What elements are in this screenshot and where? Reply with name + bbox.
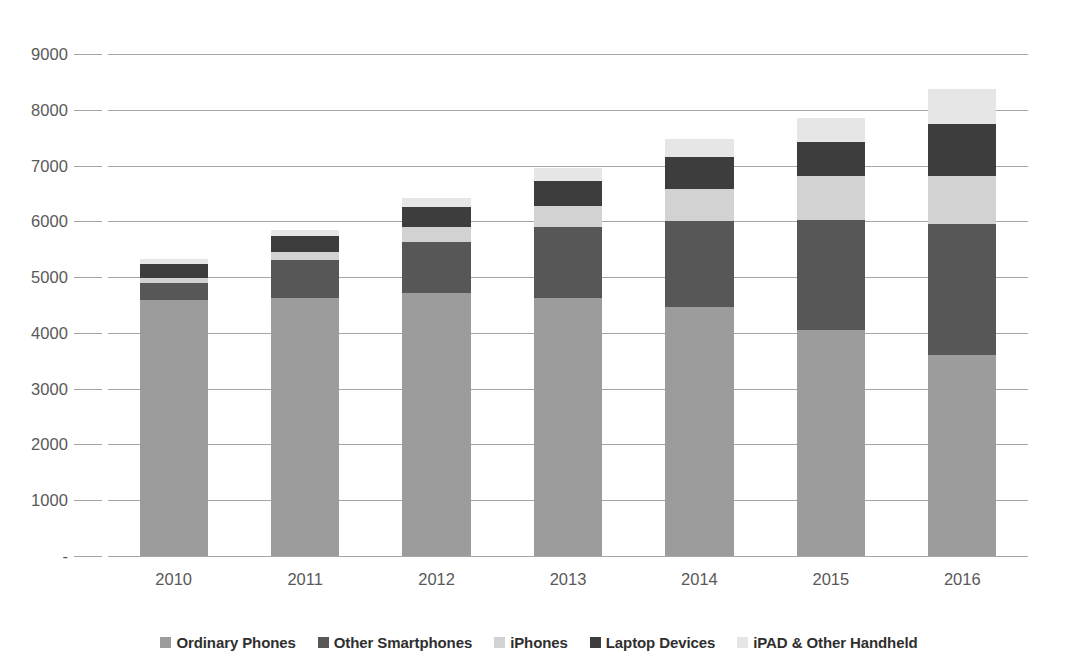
y-axis-tick bbox=[74, 277, 102, 278]
stacked-bar-chart: -100020003000400050006000700080009000 20… bbox=[0, 0, 1078, 664]
y-axis-label: 2000 bbox=[31, 435, 68, 454]
bar-segment[interactable] bbox=[797, 118, 865, 142]
y-axis-label: 4000 bbox=[31, 323, 68, 342]
legend-label: iPhones bbox=[510, 634, 568, 651]
bar-segment[interactable] bbox=[797, 142, 865, 176]
bar-group-2014[interactable] bbox=[665, 54, 733, 556]
y-axis-label: 5000 bbox=[31, 268, 68, 287]
legend-item-1[interactable]: Other Smartphones bbox=[318, 634, 472, 651]
bar-stack bbox=[928, 89, 996, 556]
bar-segment[interactable] bbox=[402, 293, 470, 556]
bar-group-2011[interactable] bbox=[271, 54, 339, 556]
legend-label: Laptop Devices bbox=[606, 634, 715, 651]
bar-segment[interactable] bbox=[402, 227, 470, 242]
y-axis-tick bbox=[74, 54, 102, 55]
bar-segment[interactable] bbox=[928, 176, 996, 224]
bar-segment[interactable] bbox=[271, 236, 339, 252]
y-axis-tick bbox=[74, 333, 102, 334]
x-axis-label-2012: 2012 bbox=[418, 570, 455, 589]
y-axis-tick bbox=[74, 166, 102, 167]
bar-segment[interactable] bbox=[928, 89, 996, 125]
bar-segment[interactable] bbox=[665, 221, 733, 307]
bar-stack bbox=[271, 230, 339, 556]
legend-item-2[interactable]: iPhones bbox=[494, 634, 568, 651]
bar-stack bbox=[797, 118, 865, 556]
x-axis-label-2013: 2013 bbox=[550, 570, 587, 589]
bar-stack bbox=[140, 259, 208, 556]
bar-segment[interactable] bbox=[665, 307, 733, 556]
legend-swatch-icon bbox=[737, 637, 748, 648]
bar-segment[interactable] bbox=[534, 298, 602, 556]
chart-legend: Ordinary PhonesOther SmartphonesiPhonesL… bbox=[0, 634, 1078, 651]
y-axis-tick bbox=[74, 110, 102, 111]
legend-item-3[interactable]: Laptop Devices bbox=[590, 634, 715, 651]
y-axis-tick bbox=[74, 500, 102, 501]
bar-segment[interactable] bbox=[140, 283, 208, 300]
bar-segment[interactable] bbox=[797, 220, 865, 330]
bar-segment[interactable] bbox=[534, 227, 602, 298]
bar-segment[interactable] bbox=[665, 189, 733, 221]
legend-label: Ordinary Phones bbox=[176, 634, 295, 651]
bar-group-2015[interactable] bbox=[797, 54, 865, 556]
legend-swatch-icon bbox=[494, 637, 505, 648]
y-axis-tick bbox=[74, 556, 102, 557]
bar-segment[interactable] bbox=[140, 264, 208, 278]
bar-segment[interactable] bbox=[534, 181, 602, 206]
legend-item-0[interactable]: Ordinary Phones bbox=[160, 634, 295, 651]
bar-stack bbox=[534, 168, 602, 556]
y-axis-label: 1000 bbox=[31, 491, 68, 510]
legend-label: Other Smartphones bbox=[334, 634, 472, 651]
x-axis-label-2011: 2011 bbox=[287, 570, 322, 589]
y-axis-label: - bbox=[62, 547, 68, 566]
bar-stack bbox=[402, 198, 470, 556]
bar-segment[interactable] bbox=[797, 330, 865, 556]
y-axis-label: 3000 bbox=[31, 379, 68, 398]
bar-segment[interactable] bbox=[534, 168, 602, 181]
bar-segment[interactable] bbox=[271, 298, 339, 556]
bar-segment[interactable] bbox=[928, 355, 996, 556]
bar-segment[interactable] bbox=[271, 260, 339, 298]
legend-swatch-icon bbox=[318, 637, 329, 648]
x-axis: 2010201120122013201420152016 bbox=[108, 560, 1028, 600]
bar-segment[interactable] bbox=[928, 124, 996, 176]
bar-group-2013[interactable] bbox=[534, 54, 602, 556]
x-axis-label-2015: 2015 bbox=[812, 570, 849, 589]
bar-segment[interactable] bbox=[665, 139, 733, 157]
bar-group-2012[interactable] bbox=[402, 54, 470, 556]
legend-item-4[interactable]: iPAD & Other Handheld bbox=[737, 634, 917, 651]
legend-swatch-icon bbox=[160, 637, 171, 648]
y-axis-label: 6000 bbox=[31, 212, 68, 231]
bar-segment[interactable] bbox=[402, 242, 470, 293]
bar-segment[interactable] bbox=[797, 176, 865, 220]
y-axis-tick bbox=[74, 389, 102, 390]
bar-segment[interactable] bbox=[402, 198, 470, 207]
x-axis-label-2014: 2014 bbox=[681, 570, 718, 589]
bar-segment[interactable] bbox=[665, 157, 733, 189]
y-axis-label: 9000 bbox=[31, 45, 68, 64]
y-axis-tick bbox=[74, 444, 102, 445]
legend-label: iPAD & Other Handheld bbox=[753, 634, 917, 651]
bar-segment[interactable] bbox=[534, 206, 602, 227]
y-axis-label: 8000 bbox=[31, 100, 68, 119]
gridline bbox=[108, 556, 1028, 557]
x-axis-label-2016: 2016 bbox=[944, 570, 981, 589]
bar-segment[interactable] bbox=[271, 252, 339, 260]
y-axis: -100020003000400050006000700080009000 bbox=[0, 0, 104, 664]
legend-swatch-icon bbox=[590, 637, 601, 648]
bar-segment[interactable] bbox=[928, 224, 996, 355]
x-axis-label-2010: 2010 bbox=[155, 570, 192, 589]
bars-layer bbox=[108, 54, 1028, 556]
bar-segment[interactable] bbox=[402, 207, 470, 227]
bar-group-2010[interactable] bbox=[140, 54, 208, 556]
bar-group-2016[interactable] bbox=[928, 54, 996, 556]
bar-segment[interactable] bbox=[140, 300, 208, 556]
y-axis-tick bbox=[74, 221, 102, 222]
bar-stack bbox=[665, 139, 733, 556]
y-axis-label: 7000 bbox=[31, 156, 68, 175]
